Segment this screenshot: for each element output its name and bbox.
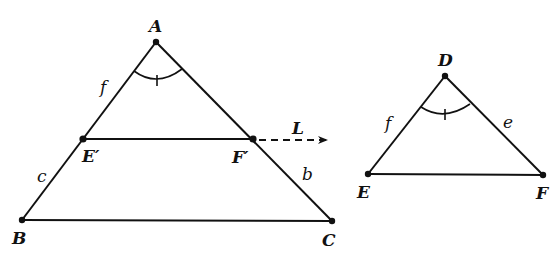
- point-e-prime: [79, 135, 86, 142]
- point-b: [19, 217, 25, 223]
- side-ab: [22, 42, 156, 220]
- angle-arc-a: [134, 69, 182, 79]
- label-c: C: [322, 230, 336, 250]
- label-d: D: [437, 50, 453, 70]
- label-e: E: [356, 182, 371, 202]
- label-f-prime: F′: [231, 147, 249, 167]
- side-de: [368, 76, 445, 174]
- label-f: F: [535, 183, 550, 203]
- point-f: [540, 172, 546, 178]
- side-bc: [22, 220, 332, 221]
- side-df: [445, 76, 543, 175]
- label-a: A: [147, 16, 162, 36]
- label-side-b: b: [302, 164, 313, 184]
- label-e-prime: E′: [81, 146, 100, 166]
- label-l: L: [291, 118, 304, 138]
- point-c: [329, 218, 335, 224]
- similar-triangles-diagram: A B C E′ F′ L f c b D E F f e: [0, 0, 559, 256]
- label-side-f-def: f: [383, 113, 394, 133]
- point-d: [442, 73, 448, 79]
- point-a: [153, 39, 159, 45]
- triangle-abc: A B C E′ F′ L f c b: [11, 16, 336, 250]
- label-side-f: f: [98, 77, 109, 97]
- label-side-c: c: [37, 166, 47, 186]
- triangle-def: D E F f e: [356, 50, 550, 203]
- side-ef: [368, 174, 543, 175]
- label-side-e: e: [503, 112, 513, 132]
- side-ac: [156, 42, 332, 221]
- label-b: B: [11, 228, 26, 248]
- point-f-prime: [249, 135, 256, 142]
- point-e: [365, 171, 371, 177]
